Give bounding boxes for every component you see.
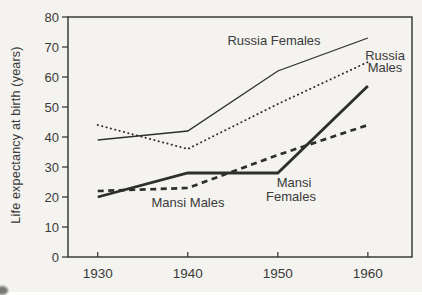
series-label-mansi-males: Mansi Males	[152, 195, 225, 210]
series-label-russia-females: Russia Females	[227, 33, 321, 48]
y-axis-tick-label: 50	[45, 100, 59, 115]
x-axis-tick-label: 1960	[353, 266, 383, 281]
y-axis-tick-label: 20	[45, 190, 59, 205]
x-axis-tick-label: 1930	[83, 266, 113, 281]
plot-frame	[68, 17, 412, 257]
y-axis-tick-label: 10	[45, 220, 59, 235]
series-line-mansi-females	[98, 86, 368, 197]
y-axis-tick-label: 60	[45, 70, 59, 85]
scan-artifact	[0, 286, 8, 295]
series-label-males: Males	[368, 60, 403, 75]
y-axis-tick-label: 30	[45, 160, 59, 175]
y-axis-tick-label: 0	[52, 250, 59, 265]
series-label-mansi: Mansi	[277, 175, 312, 190]
series-line-mansi-males	[98, 125, 368, 191]
y-axis-tick-label: 80	[45, 10, 59, 25]
x-axis-tick-label: 1950	[263, 266, 293, 281]
y-axis-tick-label: 70	[45, 40, 59, 55]
series-label-females: Females	[266, 189, 316, 204]
x-axis-tick-label: 1940	[173, 266, 203, 281]
y-axis-tick-label: 40	[45, 130, 59, 145]
y-axis-title: Life expectancy at birth (years)	[9, 46, 23, 223]
